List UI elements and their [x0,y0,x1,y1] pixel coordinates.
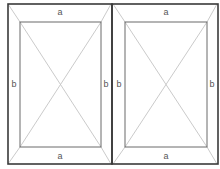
corner-miter-br [207,147,217,164]
right-panel: a a b b [112,4,218,164]
right-label-bottom: a [163,151,168,161]
corner-miter-tl [8,4,20,22]
corner-miter-tl [113,4,125,22]
right-label-top: a [163,7,168,17]
corner-miter-br [101,147,111,164]
left-panel: a a b b [8,4,112,164]
left-label-right: b [103,79,108,89]
left-label-bottom: a [57,151,62,161]
left-label-left: b [11,79,16,89]
corner-miter-bl [113,147,125,164]
right-label-right: b [209,79,214,89]
right-label-left: b [116,79,121,89]
corner-miter-tr [207,4,217,22]
window-diagram: a a b b a a b b [0,0,220,169]
left-label-top: a [57,7,62,17]
corner-miter-tr [101,4,111,22]
corner-miter-bl [8,147,20,164]
